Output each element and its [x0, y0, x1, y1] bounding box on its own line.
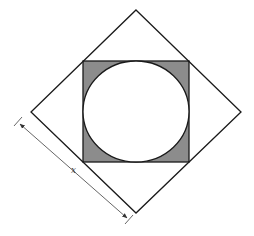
- geometry-figure: x: [0, 0, 254, 236]
- diagram-canvas: x: [0, 0, 254, 236]
- dimension-label: x: [71, 165, 76, 175]
- inscribed-circle: [83, 61, 189, 162]
- dimension-tick-end: [125, 215, 133, 224]
